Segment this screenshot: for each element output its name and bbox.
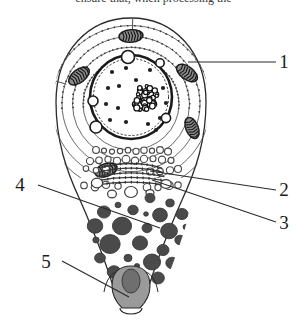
cell-diagram-figure: ensure that, when processing the xyxy=(0,0,307,324)
cell-illustration: 12345 xyxy=(0,0,307,324)
label-number-5: 5 xyxy=(41,251,51,272)
label-number-3: 3 xyxy=(279,212,289,233)
label-number-2: 2 xyxy=(279,179,289,200)
label-number-1: 1 xyxy=(279,51,289,72)
label-number-4: 4 xyxy=(15,174,25,195)
